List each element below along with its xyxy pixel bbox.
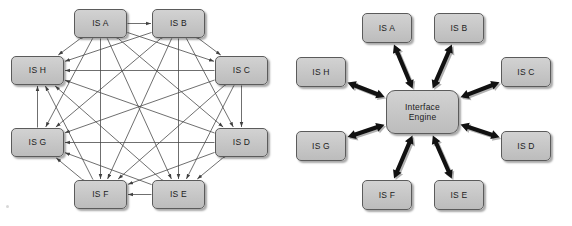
node-label: IS E <box>451 190 468 200</box>
node-label: IS B <box>170 18 187 28</box>
node-label: IS A <box>379 23 395 33</box>
node-is-d[interactable]: IS D <box>501 131 551 161</box>
hub-arrow-h <box>348 81 385 98</box>
hub-arrow-d <box>461 123 500 139</box>
node-is-c[interactable]: IS C <box>501 57 551 87</box>
node-is-f[interactable]: IS F <box>362 180 412 210</box>
mesh-connection-b-c <box>199 39 220 55</box>
hub-arrow-f <box>393 136 413 179</box>
node-label: IS F <box>379 190 395 200</box>
node-label: IS G <box>312 141 330 151</box>
node-is-b[interactable]: IS B <box>152 9 205 38</box>
node-is-e[interactable]: IS E <box>152 180 205 209</box>
node-is-h[interactable]: IS H <box>11 56 64 85</box>
mesh-connection-layer <box>0 0 286 226</box>
panel-interface-engine-hub: IS AIS BIS CIS DIS EIS FIS GIS HInterfac… <box>286 0 572 226</box>
node-is-c[interactable]: IS C <box>215 56 268 85</box>
mesh-connection-a-h <box>58 39 79 55</box>
hub-node-interface-engine[interactable]: Interface Engine <box>386 90 459 134</box>
hub-arrow-e <box>432 136 453 179</box>
node-is-a[interactable]: IS A <box>74 9 127 38</box>
mesh-connection-c-f <box>118 86 224 179</box>
hub-arrow-a <box>393 45 414 89</box>
mesh-connection-e-h <box>55 86 161 179</box>
node-is-g[interactable]: IS G <box>11 128 64 157</box>
node-is-b[interactable]: IS B <box>434 13 484 43</box>
node-is-d[interactable]: IS D <box>215 128 268 157</box>
panel-point-to-point-mesh: IS AIS BIS CIS DIS EIS FIS GIS H <box>0 0 286 226</box>
node-label: IS C <box>517 67 534 77</box>
node-is-f[interactable]: IS F <box>74 180 127 209</box>
node-label: IS F <box>92 189 108 199</box>
node-is-h[interactable]: IS H <box>296 57 346 87</box>
hub-arrow-c <box>461 81 500 99</box>
node-label: IS H <box>312 67 329 77</box>
mesh-connection-d-e <box>197 158 222 179</box>
mesh-connection-f-g <box>56 158 81 179</box>
hub-arrow-b <box>432 45 453 89</box>
node-label: IS D <box>517 141 534 151</box>
diagram-canvas: IS AIS BIS CIS DIS EIS FIS GIS H IS AIS … <box>0 0 572 226</box>
node-label: IS A <box>92 18 108 28</box>
node-label: IS B <box>451 23 468 33</box>
node-label: IS D <box>233 137 250 147</box>
mesh-connection-a-d <box>119 39 223 127</box>
node-label: Interface Engine <box>405 102 440 122</box>
node-is-e[interactable]: IS E <box>434 180 484 210</box>
node-is-g[interactable]: IS G <box>296 131 346 161</box>
node-label: IS H <box>29 65 46 75</box>
node-label: IS E <box>170 189 187 199</box>
node-label: IS G <box>29 137 47 147</box>
node-label: IS C <box>233 65 250 75</box>
mesh-connection-b-g <box>56 39 160 127</box>
node-is-a[interactable]: IS A <box>362 13 412 43</box>
